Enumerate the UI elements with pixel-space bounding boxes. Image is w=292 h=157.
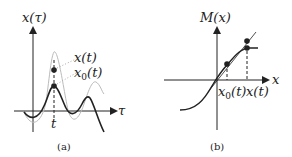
sigmoid-curve	[180, 48, 258, 110]
point-x0	[51, 83, 57, 89]
point-tangent	[244, 38, 250, 44]
legend-x0: x0(t)	[74, 65, 102, 82]
caption-b: (b)	[210, 141, 224, 152]
tick-label-x: x(t)	[246, 84, 269, 99]
figure: x(τ) τ t x(t) x0(t) (a) M(x) x x0(t) x(t…	[0, 0, 292, 157]
legend-x: x(t)	[74, 50, 97, 65]
point-sigmoid	[244, 45, 250, 51]
panel-a: x(τ) τ t x(t) x0(t) (a)	[14, 10, 126, 152]
point-x0	[224, 61, 230, 67]
curve-x0-dark	[24, 86, 104, 132]
point-x	[51, 67, 57, 73]
tick-label-x0: x0(t)	[218, 84, 246, 101]
caption-a: (a)	[57, 141, 71, 152]
tick-label-t: t	[51, 116, 57, 131]
panel-b: M(x) x x0(t) x(t) (b)	[164, 10, 280, 152]
y-axis-label: M(x)	[199, 10, 231, 25]
y-axis-label: x(τ)	[22, 10, 47, 25]
x-axis-label: τ	[118, 103, 126, 118]
x-axis-label: x	[272, 72, 280, 87]
